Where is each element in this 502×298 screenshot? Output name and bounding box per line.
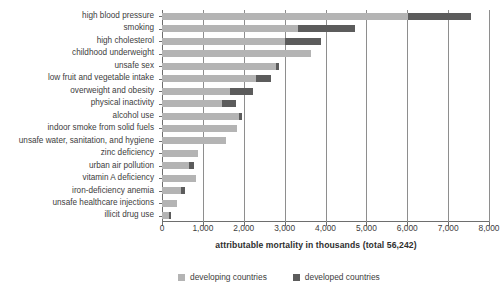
bar-row[interactable] <box>162 25 489 32</box>
legend-swatch-icon-developed <box>293 274 300 281</box>
legend-item-developing: developing countries <box>178 272 267 282</box>
bar-row[interactable] <box>162 38 489 45</box>
legend-swatch-icon-developing <box>178 274 185 281</box>
x-axis-tick-label: 2,000 <box>233 224 254 233</box>
legend-label-developed: developed countries <box>305 272 380 282</box>
bar-segment-developed[interactable] <box>285 38 322 45</box>
gridline <box>489 10 490 222</box>
bar-segment-developing[interactable] <box>162 125 237 132</box>
bar-row[interactable] <box>162 88 489 95</box>
y-axis-tickmark <box>159 91 162 92</box>
x-axis-tick-label: 1,000 <box>192 224 213 233</box>
category-label: urban air pollution <box>89 162 154 170</box>
bar-row[interactable] <box>162 200 489 207</box>
bar-row[interactable] <box>162 63 489 70</box>
x-axis-tick-labels: 01,0002,0003,0004,0005,0006,0007,0008,00… <box>162 224 489 236</box>
bar-segment-developed[interactable] <box>276 63 278 70</box>
bar-segment-developed[interactable] <box>169 212 171 219</box>
bar-segment-developed[interactable] <box>230 88 253 95</box>
bar-segment-developed[interactable] <box>256 75 271 82</box>
category-label: illicit drug use <box>104 211 154 219</box>
category-label: zinc deficiency <box>101 149 154 157</box>
category-label: smoking <box>124 24 155 32</box>
y-axis-tickmark <box>159 203 162 204</box>
bar-row[interactable] <box>162 50 489 57</box>
bar-row[interactable] <box>162 13 489 20</box>
category-label: high blood pressure <box>82 12 154 20</box>
bar-segment-developed[interactable] <box>408 13 471 20</box>
bar-segment-developing[interactable] <box>162 175 196 182</box>
x-axis-tick-label: 5,000 <box>356 224 377 233</box>
y-axis-tickmark <box>159 16 162 17</box>
bar-segment-developing[interactable] <box>162 25 298 32</box>
bar-row[interactable] <box>162 162 489 169</box>
bar-row[interactable] <box>162 137 489 144</box>
bar-segment-developing[interactable] <box>162 38 285 45</box>
x-axis-title: attributable mortality in thousands (tot… <box>0 240 502 250</box>
category-label: indoor smoke from solid fuels <box>48 124 154 132</box>
category-axis-labels: high blood pressuresmokinghigh cholester… <box>0 10 158 222</box>
bar-segment-developed[interactable] <box>239 113 242 120</box>
y-axis-tickmark <box>159 166 162 167</box>
bar-row[interactable] <box>162 212 489 219</box>
y-axis-tickmark <box>159 66 162 67</box>
y-axis-tickmark <box>159 128 162 129</box>
legend: developing countries developed countries <box>178 272 380 282</box>
category-label: childhood underweight <box>72 49 154 57</box>
bar-segment-developed[interactable] <box>181 187 185 194</box>
y-axis-tickmark <box>159 41 162 42</box>
legend-label-developing: developing countries <box>190 272 267 282</box>
y-axis-tickmark <box>159 178 162 179</box>
y-axis-tickmark <box>159 116 162 117</box>
y-axis-tickmark <box>159 141 162 142</box>
x-axis-tick-label: 3,000 <box>274 224 295 233</box>
x-axis-tick-label: 7,000 <box>438 224 459 233</box>
bar-row[interactable] <box>162 175 489 182</box>
y-axis-tickmark <box>159 216 162 217</box>
y-axis-tickmark <box>159 54 162 55</box>
category-label: overweight and obesity <box>70 87 154 95</box>
bar-segment-developing[interactable] <box>162 137 226 144</box>
bar-row[interactable] <box>162 150 489 157</box>
bar-segment-developing[interactable] <box>162 113 239 120</box>
bar-segment-developing[interactable] <box>162 75 256 82</box>
bar-row[interactable] <box>162 100 489 107</box>
bar-row[interactable] <box>162 75 489 82</box>
legend-item-developed: developed countries <box>293 272 380 282</box>
x-axis-tick-label: 4,000 <box>315 224 336 233</box>
bar-segment-developing[interactable] <box>162 13 408 20</box>
y-axis-tickmark <box>159 191 162 192</box>
bar-segment-developing[interactable] <box>162 100 222 107</box>
bar-segment-developed[interactable] <box>298 25 355 32</box>
x-axis-tick-label: 8,000 <box>479 224 500 233</box>
bar-row[interactable] <box>162 187 489 194</box>
category-label: unsafe water, sanitation, and hygiene <box>19 137 154 145</box>
bar-segment-developing[interactable] <box>162 50 311 57</box>
bar-segment-developing[interactable] <box>162 88 230 95</box>
bar-segment-developing[interactable] <box>162 150 198 157</box>
category-label: high cholesterol <box>97 37 154 45</box>
category-label: alcohol use <box>113 112 154 120</box>
x-axis-tick-label: 0 <box>160 224 165 233</box>
category-label: unsafe healthcare injections <box>52 199 154 207</box>
chart-container: high blood pressuresmokinghigh cholester… <box>0 0 502 298</box>
y-axis-tickmark <box>159 153 162 154</box>
bar-segment-developing[interactable] <box>162 187 181 194</box>
category-label: low fruit and vegetable intake <box>48 74 154 82</box>
category-label: unsafe sex <box>114 62 154 70</box>
bar-segment-developing[interactable] <box>162 63 276 70</box>
bar-row[interactable] <box>162 125 489 132</box>
plot-area <box>162 10 489 222</box>
category-label: iron-deficiency anemia <box>72 187 154 195</box>
y-axis-tickmark <box>159 29 162 30</box>
y-axis-tickmark <box>159 104 162 105</box>
category-label: vitamin A deficiency <box>83 174 154 182</box>
bar-row[interactable] <box>162 113 489 120</box>
x-axis-title-text: attributable mortality in thousands (tot… <box>85 240 416 250</box>
bar-segment-developing[interactable] <box>162 162 189 169</box>
x-axis-tick-label: 6,000 <box>397 224 418 233</box>
y-axis-tickmark <box>159 79 162 80</box>
bar-segment-developed[interactable] <box>189 162 194 169</box>
bar-segment-developing[interactable] <box>162 200 177 207</box>
bar-segment-developed[interactable] <box>222 100 236 107</box>
